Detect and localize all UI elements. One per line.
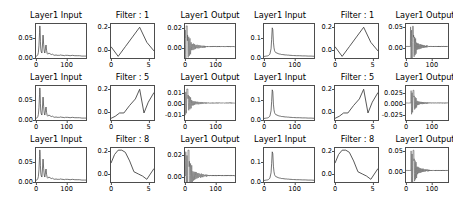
x-tick-label: 100 bbox=[60, 123, 73, 131]
x-tick-label: 100 bbox=[288, 123, 301, 131]
x-tick-label: 0 bbox=[109, 61, 113, 69]
x-tick-label: 5 bbox=[146, 185, 150, 193]
y-tick-label: 0.2 bbox=[98, 23, 109, 31]
subplot-title-r2c3: Layer1 Input bbox=[238, 134, 322, 144]
subplot-title-r2c0: Layer1 Input bbox=[14, 134, 98, 144]
data-trace bbox=[406, 26, 448, 58]
subplot-title-r0c0: Layer1 Input bbox=[14, 10, 98, 20]
x-tick-label: 0 bbox=[333, 61, 337, 69]
x-tick-label: 100 bbox=[60, 61, 73, 69]
data-trace bbox=[36, 150, 86, 181]
y-tick-label: 0.2 bbox=[322, 85, 333, 93]
plot-area-r2c2: 0.000.020100 bbox=[184, 147, 236, 183]
x-tick-label: 0 bbox=[183, 61, 187, 69]
subplot-title-r2c5: Layer1 Output bbox=[383, 134, 453, 144]
x-tick-label: 100 bbox=[209, 123, 222, 131]
x-tick-label: 5 bbox=[146, 123, 150, 131]
data-trace bbox=[36, 26, 86, 57]
y-tick-label: 0.05 bbox=[388, 23, 403, 31]
x-tick-label: 100 bbox=[426, 185, 439, 193]
y-tick-label: 0.1 bbox=[251, 158, 262, 166]
y-tick-label: 0.01 bbox=[167, 89, 182, 97]
plot-area-r0c4: 0.00.205 bbox=[334, 23, 379, 59]
x-tick-label: 100 bbox=[288, 61, 301, 69]
x-tick-label: 0 bbox=[109, 185, 113, 193]
y-tick-label: 0.0 bbox=[98, 108, 109, 116]
y-tick-label: 0.2 bbox=[322, 23, 333, 31]
x-tick-label: 100 bbox=[426, 123, 439, 131]
x-tick-label: 0 bbox=[404, 185, 408, 193]
x-tick-label: 0 bbox=[34, 185, 38, 193]
y-tick-label: 0.0 bbox=[251, 116, 262, 124]
data-trace bbox=[406, 150, 448, 182]
data-trace bbox=[264, 152, 314, 181]
y-tick-label: 0.05 bbox=[18, 158, 33, 166]
x-tick-label: 0 bbox=[333, 185, 337, 193]
plot-area-r1c3: 0.00.10100 bbox=[263, 85, 315, 121]
y-tick-label: 0.00 bbox=[167, 44, 182, 52]
y-tick-label: 0.00 bbox=[167, 173, 182, 181]
subplot-title-r2c1: Filter : 8 bbox=[95, 134, 170, 144]
subplot-title-r1c1: Filter : 5 bbox=[95, 72, 170, 82]
x-tick-label: 100 bbox=[60, 185, 73, 193]
x-tick-label: 0 bbox=[34, 123, 38, 131]
figure-canvas: Layer1 Input0.000.050100Filter : 10.00.2… bbox=[0, 0, 453, 201]
y-tick-label: 0.00 bbox=[388, 44, 403, 52]
y-tick-label: 0.0 bbox=[251, 178, 262, 186]
y-tick-label: -0.025 bbox=[382, 111, 403, 119]
data-trace bbox=[185, 89, 235, 115]
x-tick-label: 100 bbox=[288, 185, 301, 193]
plot-area-r2c3: 0.00.10100 bbox=[263, 147, 315, 183]
subplot-title-r0c3: Layer1 Input bbox=[238, 10, 322, 20]
x-tick-label: 0 bbox=[262, 123, 266, 131]
x-tick-label: 0 bbox=[404, 61, 408, 69]
data-trace bbox=[335, 150, 378, 179]
x-tick-label: 0 bbox=[404, 123, 408, 131]
data-trace bbox=[264, 28, 314, 57]
y-tick-label: -0.01 bbox=[165, 111, 182, 119]
x-tick-label: 0 bbox=[183, 185, 187, 193]
plot-area-r0c3: 0.00.10100 bbox=[263, 23, 315, 59]
x-tick-label: 100 bbox=[209, 185, 222, 193]
data-trace bbox=[111, 27, 154, 56]
x-tick-label: 100 bbox=[426, 61, 439, 69]
subplot-title-r1c0: Layer1 Input bbox=[14, 72, 98, 82]
data-trace bbox=[111, 89, 154, 118]
plot-area-r1c5: -0.0250.0000.0250100 bbox=[405, 85, 449, 121]
x-tick-label: 0 bbox=[333, 123, 337, 131]
y-tick-label: 0.0 bbox=[322, 108, 333, 116]
y-tick-label: 0.000 bbox=[384, 100, 403, 108]
x-tick-label: 5 bbox=[370, 61, 374, 69]
plot-area-r1c0: 0.000.050100 bbox=[35, 85, 87, 121]
y-tick-label: 0.00 bbox=[18, 116, 33, 124]
data-trace bbox=[335, 89, 378, 118]
x-tick-label: 100 bbox=[209, 61, 222, 69]
x-tick-label: 5 bbox=[146, 61, 150, 69]
subplot-title-r0c1: Filter : 1 bbox=[95, 10, 170, 20]
plot-area-r2c1: 0.00.205 bbox=[110, 147, 155, 183]
plot-area-r1c1: 0.00.205 bbox=[110, 85, 155, 121]
y-tick-label: 0.2 bbox=[98, 85, 109, 93]
data-trace bbox=[406, 90, 448, 114]
y-tick-label: 0.2 bbox=[98, 147, 109, 155]
subplot-title-r0c5: Layer1 Output bbox=[383, 10, 453, 20]
y-tick-label: 0.0 bbox=[98, 170, 109, 178]
plot-area-r0c5: 0.000.050100 bbox=[405, 23, 449, 59]
plot-area-r0c0: 0.000.050100 bbox=[35, 23, 87, 59]
y-tick-label: 0.00 bbox=[167, 100, 182, 108]
plot-area-r0c1: 0.00.205 bbox=[110, 23, 155, 59]
x-tick-label: 0 bbox=[262, 185, 266, 193]
data-trace bbox=[335, 27, 378, 56]
x-tick-label: 0 bbox=[109, 123, 113, 131]
y-tick-label: 0.2 bbox=[322, 147, 333, 155]
data-trace bbox=[111, 150, 154, 179]
subplot-title-r1c5: Layer1 Output bbox=[383, 72, 453, 82]
y-tick-label: 0.0 bbox=[98, 46, 109, 54]
y-tick-label: 0.05 bbox=[388, 147, 403, 155]
subplot-title-r1c3: Layer1 Input bbox=[238, 72, 322, 82]
plot-area-r2c0: 0.000.050100 bbox=[35, 147, 87, 183]
y-tick-label: 0.1 bbox=[251, 96, 262, 104]
data-trace bbox=[36, 88, 86, 119]
y-tick-label: 0.02 bbox=[167, 151, 182, 159]
plot-area-r1c4: 0.00.205 bbox=[334, 85, 379, 121]
